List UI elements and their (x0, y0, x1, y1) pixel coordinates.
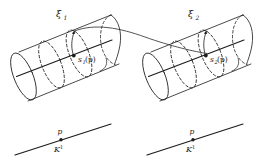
background (0, 0, 263, 168)
section-label-left: s 1 (p) (78, 55, 96, 65)
diagram-svg: ξ 1 s 1 (p) ξ 2 s 2 (p) (0, 0, 263, 168)
figure-canvas: ξ 1 s 1 (p) ξ 2 s 2 (p) (0, 0, 263, 168)
s1-argument: (p) (85, 55, 96, 64)
s2-symbol: s (210, 55, 214, 64)
base-point-right (191, 138, 194, 141)
base-point-right-label: p (190, 127, 195, 136)
section-point-left (72, 54, 76, 58)
s1-symbol: s (78, 55, 82, 64)
base-space-left-superscript: 1 (60, 144, 63, 150)
s2-argument: (p) (217, 55, 228, 64)
base-space-right-superscript: 1 (192, 144, 195, 150)
base-point-left-label: p (58, 127, 63, 136)
section-label-right: s 2 (p) (210, 55, 228, 65)
xi1-subscript: 1 (64, 14, 68, 21)
xi1-symbol: ξ (56, 8, 62, 19)
xi2-symbol: ξ (188, 8, 194, 19)
section-point-right (204, 54, 208, 58)
xi2-subscript: 2 (195, 14, 200, 21)
base-point-left (59, 138, 62, 141)
